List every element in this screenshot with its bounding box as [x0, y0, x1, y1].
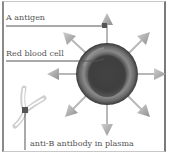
- antigen-arrow-top-left: [63, 32, 87, 54]
- diagram-figure: A antigen Red blood cell anti-B antibody…: [0, 0, 171, 154]
- antigen-arrow-bottom-right: [128, 96, 150, 117]
- antigen-label: A antigen: [6, 13, 45, 23]
- antibody-marker: [22, 107, 28, 113]
- antigen-arrow-bottom-left: [65, 96, 86, 117]
- antigen-arrow-bottom: [101, 104, 113, 136]
- diagram-graphic: [0, 0, 171, 154]
- antibody-label: anti-B antibody in plasma: [30, 139, 134, 149]
- antigen-marker: [102, 23, 107, 28]
- antigen-arrow-top-right: [128, 32, 150, 54]
- cell-label: Red blood cell: [6, 49, 64, 59]
- antigen-arrow-top: [101, 13, 113, 46]
- antigen-arrow-left: [47, 68, 78, 80]
- antigen-arrow-right: [137, 68, 166, 80]
